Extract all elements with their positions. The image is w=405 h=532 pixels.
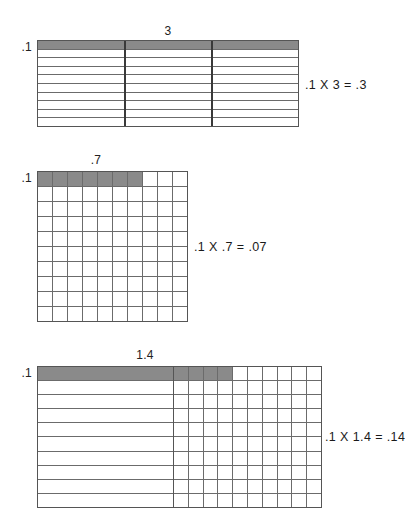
empty-cell	[233, 494, 248, 507]
empty-cell	[38, 217, 53, 231]
diagram-2-grid	[37, 171, 188, 322]
empty-cell	[307, 423, 321, 436]
empty-cell	[143, 202, 158, 216]
empty-cell	[113, 247, 128, 261]
empty-cell	[233, 367, 248, 380]
empty-cell	[189, 494, 204, 507]
shaded-cell	[174, 367, 189, 380]
empty-cell	[68, 262, 83, 276]
empty-cell	[83, 307, 98, 321]
empty-cell	[68, 277, 83, 291]
table-row	[174, 480, 321, 494]
empty-cell	[158, 262, 173, 276]
empty-cell	[204, 452, 219, 465]
empty-cell	[248, 494, 263, 507]
empty-cell	[68, 232, 83, 246]
empty-cell	[38, 480, 173, 493]
empty-cell	[143, 232, 158, 246]
empty-cell	[278, 480, 293, 493]
diagram-3-whole-rows	[38, 367, 173, 507]
empty-cell	[307, 452, 321, 465]
empty-cell	[189, 395, 204, 408]
empty-cell	[38, 437, 173, 450]
table-row	[38, 292, 187, 307]
empty-cell	[128, 292, 143, 306]
empty-cell	[292, 494, 307, 507]
empty-cell	[143, 262, 158, 276]
table-row	[38, 202, 187, 217]
diagram-2-equation: .1 X .7 = .07	[194, 240, 267, 254]
empty-cell	[173, 247, 187, 261]
empty-cell	[38, 395, 173, 408]
table-row	[38, 452, 173, 466]
empty-cell	[38, 202, 53, 216]
empty-cell	[173, 232, 187, 246]
empty-cell	[233, 452, 248, 465]
empty-cell	[204, 480, 219, 493]
empty-cell	[68, 292, 83, 306]
empty-cell	[174, 423, 189, 436]
empty-cell	[248, 381, 263, 394]
empty-cell	[263, 437, 278, 450]
empty-cell	[307, 367, 321, 380]
empty-cell	[174, 480, 189, 493]
table-row	[38, 437, 173, 451]
empty-cell	[128, 247, 143, 261]
empty-cell	[292, 423, 307, 436]
empty-cell	[292, 437, 307, 450]
empty-cell	[128, 217, 143, 231]
empty-cell	[113, 262, 128, 276]
empty-cell	[278, 381, 293, 394]
empty-cell	[278, 409, 293, 422]
empty-cell	[68, 202, 83, 216]
empty-cell	[98, 202, 113, 216]
empty-cell	[174, 381, 189, 394]
table-row	[38, 232, 187, 247]
empty-cell	[53, 217, 68, 231]
empty-cell	[292, 452, 307, 465]
empty-cell	[218, 437, 233, 450]
empty-cell	[292, 381, 307, 394]
empty-cell	[233, 409, 248, 422]
empty-cell	[113, 232, 128, 246]
empty-cell	[233, 437, 248, 450]
empty-cell	[204, 466, 219, 479]
empty-cell	[158, 217, 173, 231]
empty-cell	[158, 202, 173, 216]
empty-cell	[233, 423, 248, 436]
empty-cell	[263, 452, 278, 465]
table-row	[174, 437, 321, 451]
empty-cell	[278, 466, 293, 479]
empty-cell	[189, 480, 204, 493]
empty-cell	[263, 381, 278, 394]
table-row	[38, 466, 173, 480]
empty-cell	[307, 437, 321, 450]
empty-cell	[158, 232, 173, 246]
empty-cell	[38, 452, 173, 465]
empty-cell	[174, 494, 189, 507]
empty-cell	[292, 466, 307, 479]
empty-cell	[38, 381, 173, 394]
empty-cell	[173, 217, 187, 231]
table-row	[174, 466, 321, 480]
empty-cell	[128, 262, 143, 276]
empty-cell	[189, 381, 204, 394]
empty-cell	[218, 480, 233, 493]
empty-cell	[143, 217, 158, 231]
empty-cell	[83, 232, 98, 246]
empty-cell	[307, 494, 321, 507]
empty-cell	[143, 292, 158, 306]
empty-cell	[98, 232, 113, 246]
empty-cell	[98, 307, 113, 321]
empty-cell	[53, 247, 68, 261]
diagram-multiply-tenth-by-one-point-four: 1.4 .1	[0, 0, 405, 190]
empty-cell	[158, 292, 173, 306]
empty-cell	[158, 277, 173, 291]
empty-cell	[113, 292, 128, 306]
empty-cell	[292, 480, 307, 493]
empty-cell	[204, 395, 219, 408]
table-row	[38, 395, 173, 409]
diagram-3-fraction-rows	[174, 367, 321, 507]
empty-cell	[292, 395, 307, 408]
table-row	[38, 494, 173, 507]
